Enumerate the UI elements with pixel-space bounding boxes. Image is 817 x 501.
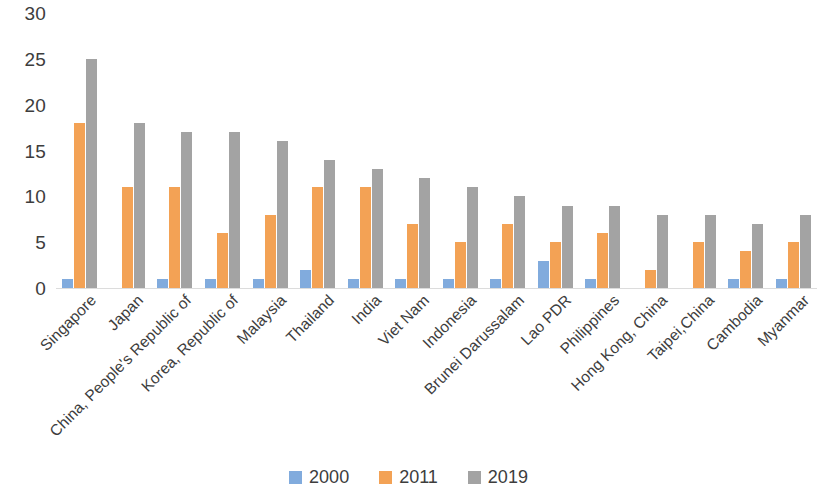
legend-item-2000[interactable]: 2000: [289, 468, 349, 486]
bar-2011-japan: [122, 187, 133, 288]
x-axis-baseline: [56, 288, 817, 289]
y-axis-tick-30: 30: [24, 4, 46, 23]
legend-label-2000: 2000: [309, 468, 349, 486]
bar-group: [579, 13, 627, 288]
bar-2011-cambodia: [740, 251, 751, 288]
bar-2019-hong-kong-china: [657, 215, 668, 288]
bar-group: [389, 13, 437, 288]
bar-group: [294, 13, 342, 288]
bar-2019-philippines: [609, 206, 620, 289]
bar-2000-thailand: [300, 270, 311, 288]
bar-2019-india: [372, 169, 383, 288]
x-axis-category-labels: SingaporeJapanChina, People's Republic o…: [56, 292, 817, 452]
bar-2019-taipei-china: [705, 215, 716, 288]
legend-label-2019: 2019: [488, 468, 528, 486]
bar-2011-hong-kong-china: [645, 270, 656, 288]
y-axis-tick-25: 25: [24, 49, 46, 68]
bar-2000-lao-pdr: [538, 261, 549, 289]
bar-2000-korea-republic-of: [205, 279, 216, 288]
x-axis-label-india: India: [349, 292, 384, 327]
y-axis-tick-10: 10: [24, 187, 46, 206]
bar-2019-myanmar: [800, 215, 811, 288]
bar-group: [246, 13, 294, 288]
bar-2011-thailand: [312, 187, 323, 288]
bar-2011-lao-pdr: [550, 242, 561, 288]
bar-group: [532, 13, 580, 288]
bar-2000-singapore: [62, 279, 73, 288]
bar-2011-india: [360, 187, 371, 288]
legend-swatch-icon-2000: [289, 471, 302, 484]
chart-legend: 200020112019: [0, 468, 817, 486]
bar-2000-brunei-darussalam: [490, 279, 501, 288]
legend-label-2011: 2011: [399, 468, 438, 486]
y-axis-tick-labels: 051015202530: [0, 0, 46, 301]
bar-group: [674, 13, 722, 288]
bar-2000-china-people-s-republic-of: [157, 279, 168, 288]
bar-2019-china-people-s-republic-of: [181, 132, 192, 288]
bar-2011-myanmar: [788, 242, 799, 288]
bar-2019-lao-pdr: [562, 206, 573, 289]
bar-2019-cambodia: [752, 224, 763, 288]
bar-2019-thailand: [324, 160, 335, 288]
bar-2019-singapore: [86, 59, 97, 288]
bar-2000-indonesia: [443, 279, 454, 288]
bar-2000-cambodia: [728, 279, 739, 288]
bar-groups: [56, 13, 817, 288]
bar-2011-malaysia: [265, 215, 276, 288]
bar-group: [627, 13, 675, 288]
y-axis-tick-15: 15: [24, 141, 46, 160]
bar-2000-india: [348, 279, 359, 288]
x-axis-label-singapore: Singapore: [37, 292, 99, 354]
bar-group: [56, 13, 104, 288]
bar-2011-brunei-darussalam: [502, 224, 513, 288]
bar-group: [199, 13, 247, 288]
bar-group: [341, 13, 389, 288]
bar-group: [437, 13, 485, 288]
x-axis-label-japan: Japan: [105, 292, 147, 334]
x-axis-label-thailand: Thailand: [283, 292, 337, 346]
legend-item-2011[interactable]: 2011: [379, 468, 438, 486]
y-axis-tick-20: 20: [24, 95, 46, 114]
bar-2011-viet-nam: [407, 224, 418, 288]
x-axis-label-korea-republic-of: Korea, Republic of: [139, 292, 242, 395]
plot-area: [56, 13, 817, 288]
legend-swatch-icon-2019: [468, 471, 481, 484]
bar-2019-viet-nam: [419, 178, 430, 288]
y-axis-tick-0: 0: [35, 279, 46, 298]
bar-2019-indonesia: [467, 187, 478, 288]
bar-2011-singapore: [74, 123, 85, 288]
bar-2011-korea-republic-of: [217, 233, 228, 288]
bar-2019-japan: [134, 123, 145, 288]
bar-2011-china-people-s-republic-of: [169, 187, 180, 288]
legend-swatch-icon-2011: [379, 471, 392, 484]
bar-chart: 051015202530 SingaporeJapanChina, People…: [0, 0, 817, 501]
bar-2011-indonesia: [455, 242, 466, 288]
bar-2011-taipei-china: [693, 242, 704, 288]
bar-2000-philippines: [585, 279, 596, 288]
bar-2019-brunei-darussalam: [514, 196, 525, 288]
bar-group: [151, 13, 199, 288]
bar-2011-philippines: [597, 233, 608, 288]
bar-2019-korea-republic-of: [229, 132, 240, 288]
bar-group: [769, 13, 817, 288]
bar-2000-viet-nam: [395, 279, 406, 288]
bar-group: [104, 13, 152, 288]
bar-2000-malaysia: [253, 279, 264, 288]
x-axis-label-malaysia: Malaysia: [234, 292, 289, 347]
bar-2019-malaysia: [277, 141, 288, 288]
bar-2000-myanmar: [776, 279, 787, 288]
y-axis-tick-5: 5: [35, 233, 46, 252]
x-axis-label-myanmar: Myanmar: [755, 292, 812, 349]
legend-item-2019[interactable]: 2019: [468, 468, 528, 486]
bar-group: [722, 13, 770, 288]
bar-group: [484, 13, 532, 288]
